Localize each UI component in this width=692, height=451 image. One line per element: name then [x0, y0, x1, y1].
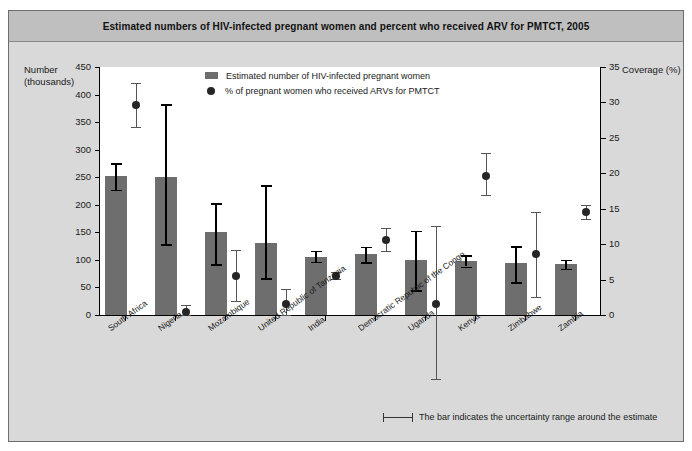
coverage-error-cap-high — [131, 83, 141, 84]
bar-error-cap-low — [161, 244, 172, 246]
coverage-dot-zimbabwe — [532, 250, 540, 258]
right-tick-label: 35 — [609, 62, 635, 72]
bar-error-cap-high — [261, 185, 272, 187]
bar-error-line — [515, 246, 517, 282]
right-tick-label: 5 — [609, 275, 635, 285]
coverage-dot-uganda — [432, 300, 440, 308]
coverage-error-cap-high — [431, 226, 441, 227]
left-tick — [95, 315, 100, 316]
left-tick-label: 50 — [55, 282, 91, 292]
bar-south-africa — [105, 176, 127, 315]
bar-error-line — [365, 247, 367, 262]
coverage-error-cap-high — [581, 205, 591, 206]
coverage-error-cap-high — [481, 153, 491, 154]
bar-error-cap-low — [561, 269, 572, 271]
legend-bar-swatch — [205, 72, 218, 79]
right-tick-label: 10 — [609, 239, 635, 249]
left-tick-label: 300 — [55, 145, 91, 155]
left-tick-label: 0 — [55, 310, 91, 320]
right-tick — [601, 280, 606, 281]
bar-error-line — [315, 251, 317, 262]
bar-error-cap-high — [211, 203, 222, 205]
left-axis-title-line2: (thousands) — [24, 76, 84, 88]
right-tick — [601, 315, 606, 316]
legend-bar-label: Estimated number of HIV-infected pregnan… — [226, 71, 430, 81]
right-tick-label: 0 — [609, 310, 635, 320]
coverage-error-cap-low — [431, 379, 441, 380]
bar-error-cap-high — [161, 104, 172, 106]
right-tick — [601, 138, 606, 139]
chart-legend: Estimated number of HIV-infected pregnan… — [205, 68, 439, 98]
bar-error-cap-low — [461, 267, 472, 269]
left-tick — [95, 150, 100, 151]
left-tick — [95, 95, 100, 96]
left-axis-line — [99, 67, 100, 316]
chart-page: Estimated numbers of HIV-infected pregna… — [0, 0, 692, 451]
right-tick-label: 20 — [609, 168, 635, 178]
bar-error-cap-high — [411, 231, 422, 233]
legend-item-dots: % of pregnant women who received ARVs fo… — [205, 83, 439, 98]
bar-error-cap-high — [311, 251, 322, 253]
bar-error-line — [165, 104, 167, 245]
bar-error-line — [115, 163, 117, 189]
left-tick-label: 100 — [55, 255, 91, 265]
footnote: The bar indicates the uncertainty range … — [383, 412, 657, 422]
left-tick — [95, 122, 100, 123]
coverage-error-cap-high — [181, 305, 191, 306]
right-tick — [601, 209, 606, 210]
right-tick — [601, 173, 606, 174]
page-title: Estimated numbers of HIV-infected pregna… — [103, 21, 590, 32]
coverage-error-cap-high — [231, 250, 241, 251]
chart-title-band: Estimated numbers of HIV-infected pregna… — [9, 11, 683, 42]
coverage-error-cap-low — [581, 219, 591, 220]
legend-dot-marker — [207, 87, 215, 95]
bar-kenya — [455, 261, 477, 315]
bar-error-cap-low — [111, 190, 122, 192]
coverage-error-cap-low — [131, 127, 141, 128]
left-tick-label: 450 — [55, 62, 91, 72]
left-tick — [95, 260, 100, 261]
bar-zambia — [555, 264, 577, 315]
bar-error-line — [215, 203, 217, 264]
coverage-error-cap-high — [281, 289, 291, 290]
bar-error-cap-low — [261, 278, 272, 280]
right-tick — [601, 67, 606, 68]
bar-error-cap-low — [361, 262, 372, 264]
bar-error-cap-high — [511, 246, 522, 248]
coverage-error-cap-low — [531, 297, 541, 298]
coverage-dot-south-africa — [132, 101, 140, 109]
bar-error-cap-low — [311, 262, 322, 264]
left-tick — [95, 67, 100, 68]
coverage-error-cap-high — [531, 212, 541, 213]
right-tick-label: 15 — [609, 204, 635, 214]
bar-error-cap-low — [211, 264, 222, 266]
left-tick — [95, 232, 100, 233]
right-tick-label: 30 — [609, 97, 635, 107]
coverage-dot-democratic-republic-of-the-congo — [382, 236, 390, 244]
left-tick-label: 400 — [55, 90, 91, 100]
left-tick-label: 150 — [55, 227, 91, 237]
legend-dot-label: % of pregnant women who received ARVs fo… — [225, 86, 439, 96]
coverage-dot-mozambique — [232, 272, 240, 280]
bar-error-cap-high — [111, 163, 122, 165]
bar-error-line — [265, 185, 267, 278]
coverage-error-cap-high — [381, 228, 391, 229]
right-tick — [601, 102, 606, 103]
right-tick-label: 25 — [609, 133, 635, 143]
legend-item-bars: Estimated number of HIV-infected pregnan… — [205, 68, 439, 83]
coverage-error-cap-low — [381, 251, 391, 252]
right-tick — [601, 244, 606, 245]
left-tick-label: 350 — [55, 117, 91, 127]
bar-error-cap-high — [561, 260, 572, 262]
left-tick-label: 200 — [55, 200, 91, 210]
bar-error-cap-low — [511, 282, 522, 284]
uncertainty-range-icon — [383, 413, 413, 422]
left-tick — [95, 287, 100, 288]
left-tick-label: 250 — [55, 172, 91, 182]
left-tick — [95, 205, 100, 206]
coverage-error-cap-low — [481, 195, 491, 196]
bar-error-cap-high — [361, 247, 372, 249]
footnote-text: The bar indicates the uncertainty range … — [419, 412, 657, 422]
left-tick — [95, 177, 100, 178]
